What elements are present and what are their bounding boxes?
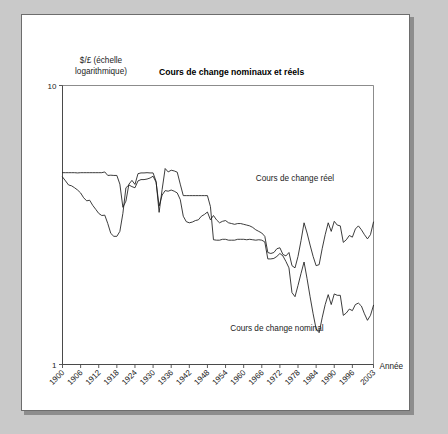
chart-title: Cours de change nominaux et réels [159, 67, 304, 77]
y-axis-caption: $/£ (échelle logarithmique) [56, 56, 146, 77]
y-axis-caption-line-2: logarithmique) [75, 67, 127, 76]
figure-panel: $/£ (échelle logarithmique) Cours de cha… [21, 14, 410, 411]
y-axis-caption-line-1: $/£ (échelle [80, 56, 122, 65]
